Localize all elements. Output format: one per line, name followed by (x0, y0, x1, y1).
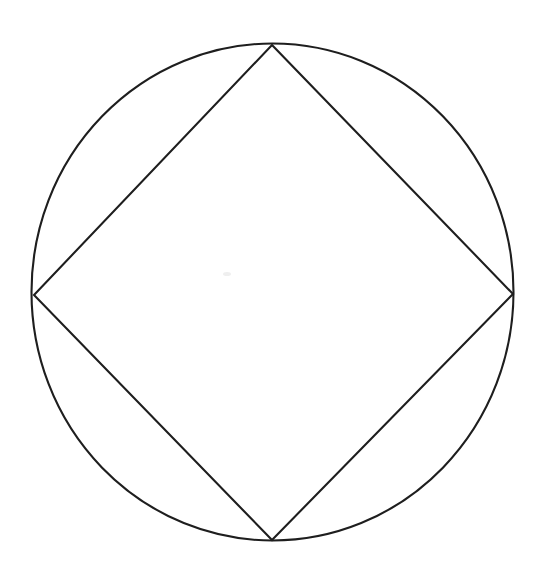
inscribed-square (34, 45, 513, 540)
square-vertices (28, 39, 519, 546)
circumscribed-circle (32, 44, 514, 541)
figure-canvas (0, 0, 535, 568)
geometry-diagram (0, 0, 535, 568)
left-vertex (28, 289, 40, 301)
right-vertex (507, 288, 519, 300)
bottom-vertex (266, 534, 278, 546)
square-edges (34, 45, 513, 540)
top-vertex (266, 39, 278, 51)
scan-speck (223, 272, 231, 276)
